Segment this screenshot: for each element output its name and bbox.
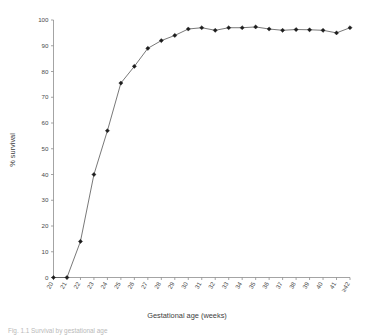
y-axis-tick-label: 50 [42, 145, 49, 152]
y-axis-tick-label: 30 [42, 196, 49, 203]
data-point-marker [159, 39, 163, 43]
figure-container: 0102030405060708090100 20212223242526272… [0, 0, 365, 336]
x-axis-tick-label: 32 [207, 280, 217, 290]
x-axis-tick-label: 30 [180, 280, 190, 290]
y-axis-tick-label: 20 [42, 222, 49, 229]
data-point-marker [240, 26, 244, 30]
data-point-marker [213, 28, 217, 32]
figure-caption: Fig. 1.1 Survival by gestational age [8, 327, 108, 335]
data-point-marker [267, 27, 271, 31]
data-point-marker [51, 275, 55, 279]
y-axis-tick-label: 60 [42, 119, 49, 126]
x-axis-tick-label: 23 [85, 280, 95, 290]
survival-series-markers [51, 25, 352, 280]
y-axis-tick-label: 90 [42, 42, 49, 49]
x-axis-tick-label: 27 [139, 280, 149, 290]
x-axis-tick-label: 26 [126, 280, 136, 290]
y-axis-tick-label: 70 [42, 93, 49, 100]
x-axis-tick-label: 25 [112, 280, 122, 290]
data-point-marker [281, 28, 285, 32]
x-axis-tick-label: 24 [99, 280, 109, 290]
x-axis-tick-label: 36 [260, 280, 270, 290]
x-axis-tick-label: 22 [72, 280, 82, 290]
x-axis-tick-label: 33 [220, 280, 230, 290]
y-axis-tick-label: 40 [42, 171, 49, 178]
data-point-marker [186, 27, 190, 31]
data-point-marker [321, 28, 325, 32]
data-point-marker [307, 28, 311, 32]
x-axis-tick-label: 39 [301, 280, 311, 290]
x-axis-tick-labels: 2021222324252627282930313233343536373839… [45, 280, 351, 293]
x-axis-tick-label: 41 [328, 280, 338, 290]
y-axis-tick-label: 80 [42, 68, 49, 75]
x-axis-tick-label: 38 [287, 280, 297, 290]
x-axis-tick-label: 35 [247, 280, 257, 290]
x-axis-tick-label: 21 [58, 280, 68, 290]
data-point-marker [227, 26, 231, 30]
x-axis-tick-label: 20 [45, 280, 55, 290]
x-axis: 2021222324252627282930313233343536373839… [45, 278, 351, 293]
x-axis-tick-label: ≥42 [340, 280, 351, 293]
x-axis-tick-label: 37 [274, 280, 284, 290]
data-point-marker [254, 25, 258, 29]
data-point-marker [348, 26, 352, 30]
y-axis-tick-labels: 0102030405060708090100 [38, 16, 49, 281]
x-axis-title: Gestational age (weeks) [147, 311, 227, 320]
y-axis-title: % survival [8, 133, 17, 167]
x-axis-tick-label: 34 [234, 280, 244, 290]
x-axis-tick-label: 40 [314, 280, 324, 290]
x-axis-tick-label: 29 [166, 280, 176, 290]
data-point-marker [65, 275, 69, 279]
data-point-marker [334, 31, 338, 35]
data-point-marker [294, 27, 298, 31]
data-point-marker [105, 129, 109, 133]
y-axis-tick-label: 100 [38, 16, 49, 23]
survival-series-line [54, 27, 351, 278]
data-point-marker [173, 33, 177, 37]
data-point-marker [200, 26, 204, 30]
x-axis-tick-label: 28 [153, 280, 163, 290]
y-axis-tick-label: 0 [45, 274, 49, 281]
y-axis: 0102030405060708090100 [38, 16, 53, 281]
data-point-marker [92, 172, 96, 176]
data-point-marker [78, 239, 82, 243]
x-axis-tick-label: 31 [193, 280, 203, 290]
y-axis-tick-label: 10 [42, 248, 49, 255]
survival-line-chart: 0102030405060708090100 20212223242526272… [0, 0, 365, 336]
